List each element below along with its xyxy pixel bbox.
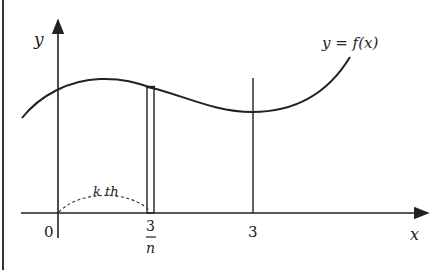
curve-label: y = f(x) — [321, 34, 378, 52]
kth-strip-rectangle — [147, 87, 154, 213]
y-axis-label: y — [33, 29, 44, 49]
tick-label-3-over-n-numerator: 3 — [146, 218, 155, 234]
x-axis-label: x — [410, 225, 419, 244]
riemann-sum-diagram: y y = f(x) k th 0 3 n 3 x — [0, 0, 443, 270]
diagram-frame: y y = f(x) k th 0 3 n 3 x — [0, 0, 443, 270]
origin-label: 0 — [44, 223, 54, 241]
tick-label-3-over-n-denominator: n — [146, 240, 155, 256]
tick-label-3: 3 — [248, 223, 258, 241]
function-curve — [22, 57, 350, 118]
kth-strip-label: k th — [93, 184, 119, 199]
